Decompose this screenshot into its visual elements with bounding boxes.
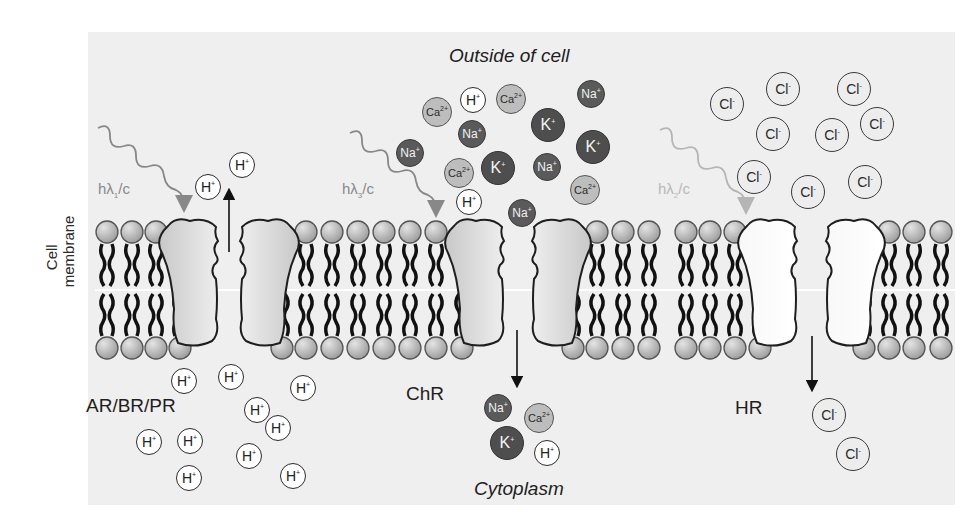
chloride-ion-icon: Cl- bbox=[837, 72, 871, 106]
proton-ion-icon: H+ bbox=[177, 428, 203, 454]
potassium-ion-icon: K+ bbox=[490, 426, 524, 460]
proton-ion-icon: H+ bbox=[236, 443, 262, 469]
sodium-ion-icon: Na+ bbox=[577, 80, 605, 108]
calcium-ion-icon: Ca2+ bbox=[444, 158, 474, 188]
proton-ion-icon: H+ bbox=[195, 174, 221, 200]
cell-membrane-label: Cell membrane bbox=[43, 227, 78, 287]
proton-ion-icon: H+ bbox=[229, 152, 255, 178]
photon-3-label: hλ3/c bbox=[342, 180, 374, 200]
chr-channel bbox=[445, 219, 591, 345]
outside-cell-label: Outside of cell bbox=[449, 45, 569, 67]
proton-ion-icon: H+ bbox=[456, 189, 482, 215]
proton-ion-icon: H+ bbox=[218, 364, 244, 390]
hr-name-label: HR bbox=[735, 397, 762, 419]
potassium-ion-icon: K+ bbox=[576, 130, 610, 164]
sodium-ion-icon: Na+ bbox=[508, 199, 536, 227]
photon-1-label: hλ1/c bbox=[98, 180, 130, 200]
proton-ion-icon: H+ bbox=[176, 465, 202, 491]
cytoplasm-label: Cytoplasm bbox=[474, 478, 564, 500]
proton-ion-icon: H+ bbox=[244, 397, 270, 423]
chloride-ion-icon: Cl- bbox=[766, 72, 800, 106]
photon-2-label: hλ2/c bbox=[658, 180, 690, 200]
chloride-ion-icon: Cl- bbox=[860, 107, 894, 141]
sodium-ion-icon: Na+ bbox=[533, 153, 561, 181]
proton-ion-icon: H+ bbox=[136, 429, 162, 455]
chloride-ion-icon: Cl- bbox=[791, 175, 825, 209]
calcium-ion-icon: Ca2+ bbox=[422, 97, 452, 127]
chloride-ion-icon: Cl- bbox=[756, 117, 790, 151]
sodium-ion-icon: Na+ bbox=[458, 120, 486, 148]
chloride-ion-icon: Cl- bbox=[737, 160, 771, 194]
proton-ion-icon: H+ bbox=[265, 415, 291, 441]
chloride-ion-icon: Cl- bbox=[836, 437, 870, 471]
sodium-ion-icon: Na+ bbox=[396, 139, 424, 167]
sodium-ion-icon: Na+ bbox=[484, 394, 512, 422]
calcium-ion-icon: Ca2+ bbox=[496, 84, 526, 114]
chloride-ion-icon: Cl- bbox=[710, 87, 744, 121]
chloride-ion-icon: Cl- bbox=[848, 165, 882, 199]
potassium-ion-icon: K+ bbox=[481, 151, 515, 185]
chloride-ion-icon: Cl- bbox=[812, 398, 846, 432]
calcium-ion-icon: Ca2+ bbox=[524, 403, 554, 433]
hr-pump bbox=[738, 219, 885, 345]
proton-ion-icon: H+ bbox=[171, 368, 197, 394]
chloride-ion-icon: Cl- bbox=[815, 118, 849, 152]
proton-ion-icon: H+ bbox=[290, 375, 316, 401]
proton-ion-icon: H+ bbox=[280, 463, 306, 489]
potassium-ion-icon: K+ bbox=[531, 108, 565, 142]
chr-name-label: ChR bbox=[406, 383, 444, 405]
pump-name-label: AR/BR/PR bbox=[86, 395, 176, 417]
calcium-ion-icon: Ca2+ bbox=[570, 175, 600, 205]
proton-ion-icon: H+ bbox=[534, 440, 560, 466]
proton-ion-icon: H+ bbox=[460, 87, 486, 113]
membrane-diagram: Outside of cell Cytoplasm Cell membrane … bbox=[0, 0, 980, 527]
